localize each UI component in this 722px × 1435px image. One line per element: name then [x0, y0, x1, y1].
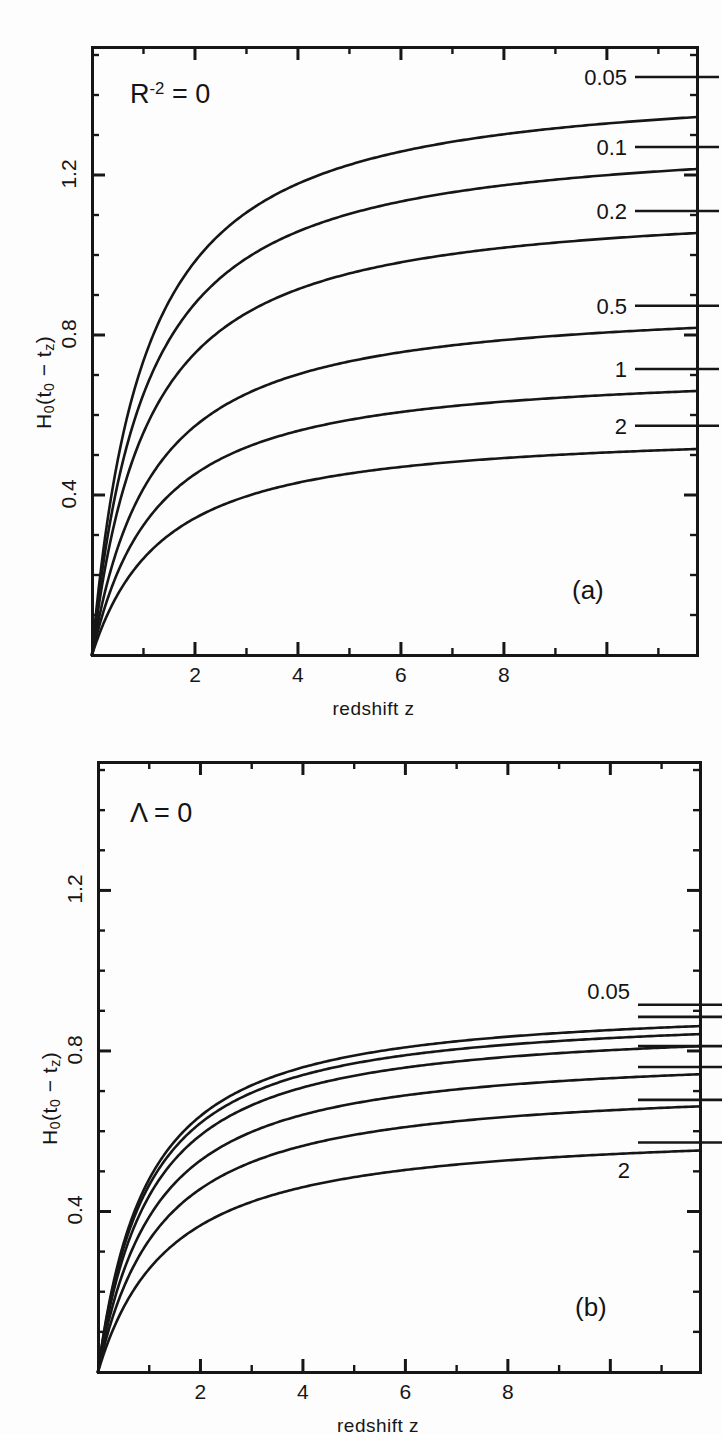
curve-omega-2 — [92, 449, 697, 655]
panel-b-x-axis-title: redshift z — [337, 1415, 419, 1435]
panel-a-curve-label-0.05: 0.05 — [497, 65, 627, 91]
curve-omega-0.05 — [92, 117, 697, 655]
panel-a-curve-label-0.5: 0.5 — [497, 294, 627, 320]
panel-b-x-tick-8: 8 — [488, 1380, 528, 1404]
curve-omega-0.1 — [98, 1034, 700, 1372]
panel-a-y-tick-1.2: 1.2 — [57, 151, 81, 197]
panel-a-curve-label-0.2: 0.2 — [497, 199, 627, 225]
panel-b-x-tick-2: 2 — [180, 1380, 220, 1404]
panel-b-x-tick-4: 4 — [283, 1380, 323, 1404]
panel-a-curve-label-0.1: 0.1 — [497, 135, 627, 161]
panel-a-tag: (a) — [572, 575, 604, 606]
panel-a-curve-label-2: 2 — [497, 414, 627, 440]
panel-a-x-tick-6: 6 — [381, 663, 421, 687]
panel-b-tag: (b) — [575, 1292, 607, 1323]
panel-a-x-tick-2: 2 — [175, 663, 215, 687]
plot-panel-b — [98, 762, 700, 1372]
panel-b-y-tick-0.8: 0.8 — [63, 1027, 87, 1073]
panel-b-y-tick-0.4: 0.4 — [63, 1187, 87, 1233]
panel-a-curve-label-1: 1 — [497, 357, 627, 383]
panel-b-y-axis-title: H0(t0 − tz) — [38, 1052, 63, 1145]
panel-b-y-tick-1.2: 1.2 — [63, 866, 87, 912]
figure-canvas: R-2 = 0 (a) redshift z H0(t0 − tz) Λ = 0… — [0, 0, 722, 1435]
panel-a-y-tick-0.8: 0.8 — [57, 311, 81, 357]
panel-a-x-tick-8: 8 — [484, 663, 524, 687]
panel-a-annotation: R-2 = 0 — [130, 79, 210, 110]
panel-b-annotation: Λ = 0 — [130, 798, 192, 829]
panel-a-x-axis-title: redshift z — [333, 698, 415, 720]
panel-b-x-tick-6: 6 — [385, 1380, 425, 1404]
panel-a-y-tick-0.4: 0.4 — [57, 471, 81, 517]
panel-b-curve-label-0.05: 0.05 — [500, 979, 630, 1005]
panel-b-curve-label-2: 2 — [500, 1158, 630, 1184]
panel-a-y-axis-title: H0(t0 − tz) — [32, 336, 57, 429]
curve-omega-0.5 — [98, 1074, 700, 1372]
panel-a-x-tick-4: 4 — [278, 663, 318, 687]
